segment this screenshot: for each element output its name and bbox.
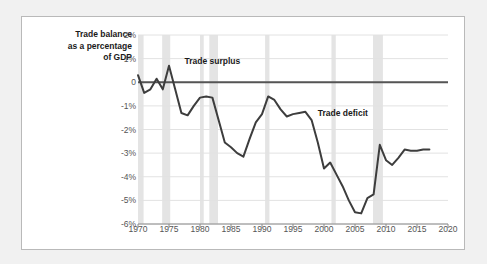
data-line — [138, 66, 429, 214]
chart-panel: Trade balance as a percentage of GDP 2%1… — [21, 16, 465, 250]
x-tick-label: 1975 — [160, 224, 179, 234]
trade-balance-line-chart — [22, 17, 466, 251]
y-tick-label: 2% — [110, 30, 136, 40]
x-tick-label: 1995 — [284, 224, 303, 234]
x-tick-label: 2010 — [377, 224, 396, 234]
x-tick-label: 1985 — [222, 224, 241, 234]
annotation-trade-deficit: Trade deficit — [318, 108, 368, 118]
screenshot-root: Trade balance as a percentage of GDP 2%1… — [0, 0, 487, 264]
x-tick-label: 1970 — [129, 224, 148, 234]
y-tick-label: -2% — [110, 125, 136, 135]
x-tick-label: 2000 — [315, 224, 334, 234]
x-axis-labels: 1970197519801985199019952000200520102015… — [22, 224, 466, 238]
y-tick-label: -5% — [110, 195, 136, 205]
x-tick-label: 2020 — [439, 224, 458, 234]
annotation-trade-surplus: Trade surplus — [185, 56, 241, 66]
y-axis-labels: 2%1%0-1%-2%-3%-4%-5%-6% — [106, 17, 136, 251]
x-tick-label: 1990 — [253, 224, 272, 234]
y-tick-label: -1% — [110, 101, 136, 111]
x-tick-label: 2015 — [408, 224, 427, 234]
x-tick-label: 2005 — [346, 224, 365, 234]
y-tick-label: 1% — [110, 54, 136, 64]
y-tick-label: -4% — [110, 172, 136, 182]
y-tick-label: -3% — [110, 148, 136, 158]
y-tick-label: 0 — [110, 77, 136, 87]
x-tick-label: 1980 — [191, 224, 210, 234]
